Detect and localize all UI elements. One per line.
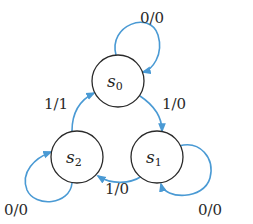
transition-s0-s1 <box>140 96 162 131</box>
transition-s2-s0 <box>72 93 94 131</box>
label-s2-s2: 0/0 <box>4 201 28 219</box>
state-s0: s0 <box>92 55 144 107</box>
state-diagram: s0 s1 s2 0/0 1/0 0/0 1/0 0/0 1/1 <box>0 0 253 224</box>
label-s1-s2: 1/0 <box>105 180 129 198</box>
state-s1: s1 <box>131 131 183 183</box>
label-s2-s0: 1/1 <box>44 95 68 113</box>
label-s0-s0: 0/0 <box>140 9 164 27</box>
state-s2: s2 <box>51 131 103 183</box>
label-s0-s1: 1/0 <box>162 95 186 113</box>
label-s1-s1: 0/0 <box>198 201 222 219</box>
